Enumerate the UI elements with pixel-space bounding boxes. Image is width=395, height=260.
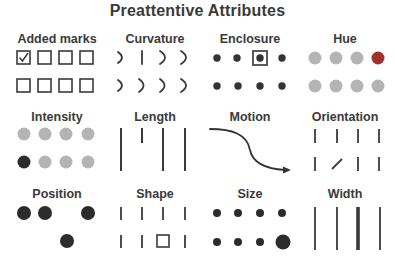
checkbox-icon (59, 79, 72, 92)
checkbox-icon (38, 51, 51, 64)
diagonal-line-icon (332, 159, 342, 169)
checkbox-icon (59, 51, 72, 64)
enclosed-dot-icon (256, 54, 263, 61)
small-dot-icon (234, 209, 242, 217)
checkbox-checked-icon (17, 51, 30, 64)
gray-dot-icon (330, 52, 343, 65)
dot-icon (213, 82, 220, 89)
panel-curvature (118, 51, 186, 92)
gray-dot-icon (309, 80, 322, 93)
small-dot-icon (213, 238, 221, 246)
panel-size (213, 209, 291, 250)
large-dot-icon (276, 235, 291, 250)
checkbox-icon (80, 79, 93, 92)
gray-dot-icon (82, 128, 95, 141)
dot-icon (38, 206, 52, 220)
dot-icon (17, 206, 31, 220)
gray-dot-icon (82, 156, 95, 169)
panel-intensity (18, 128, 95, 169)
panel-shape (121, 207, 185, 248)
arc-icon (118, 52, 122, 63)
gray-dot-icon (39, 128, 52, 141)
arc-icon (139, 79, 144, 92)
red-dot-icon (372, 52, 385, 65)
panel-length (121, 128, 185, 171)
gray-dot-icon (60, 128, 73, 141)
panel-motion (210, 129, 291, 174)
dark-dot-icon (18, 156, 31, 169)
small-dot-icon (256, 238, 264, 246)
dot-icon (256, 82, 263, 89)
small-dot-icon (213, 209, 221, 217)
checkbox-icon (38, 79, 51, 92)
gray-dot-icon (330, 80, 343, 93)
dot-icon (234, 82, 241, 89)
panel-orientation (315, 129, 379, 171)
gray-dot-icon (351, 52, 364, 65)
panel-hue (309, 52, 385, 93)
small-dot-icon (278, 209, 286, 217)
dot-icon (81, 206, 95, 220)
small-dot-icon (256, 209, 264, 217)
arc-icon (160, 51, 165, 64)
gray-dot-icon (309, 52, 322, 65)
gray-dot-icon (372, 80, 385, 93)
gray-dot-icon (60, 156, 73, 169)
curved-motion-arrow-icon (210, 129, 285, 170)
panel-width (315, 207, 380, 250)
dot-icon (278, 54, 285, 61)
panel-position (17, 206, 95, 248)
gray-dot-icon (351, 80, 364, 93)
panel-enclosure (213, 51, 285, 90)
small-dot-icon (234, 238, 242, 246)
panel-added-marks (17, 51, 93, 92)
arc-icon (181, 79, 186, 92)
offset-dot-icon (60, 234, 74, 248)
square-icon (157, 235, 169, 247)
arc-icon (160, 79, 165, 92)
gray-dot-icon (18, 128, 31, 141)
checkbox-icon (80, 51, 93, 64)
dot-icon (213, 54, 220, 61)
arrowhead-icon (283, 167, 291, 174)
gray-dot-icon (39, 156, 52, 169)
diagram-canvas (0, 0, 395, 260)
dot-icon (278, 82, 285, 89)
arc-icon (181, 51, 186, 64)
arc-icon (118, 80, 122, 91)
checkbox-icon (17, 79, 30, 92)
dot-icon (233, 54, 240, 61)
